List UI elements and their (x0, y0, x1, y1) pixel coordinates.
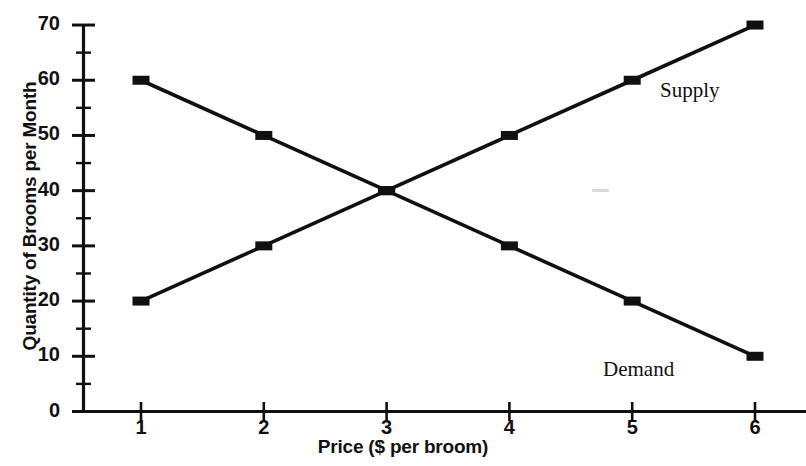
data-point-marker (501, 131, 518, 140)
x-tick-label: 6 (740, 416, 770, 439)
data-point-marker (624, 297, 641, 306)
x-tick-label: 3 (372, 416, 402, 439)
data-point-marker (624, 76, 641, 85)
y-tick-label: 0 (14, 399, 60, 422)
y-tick-label: 20 (14, 288, 60, 311)
y-tick-label: 40 (14, 178, 60, 201)
chart-figure: Quantity of Brooms per Month Price ($ pe… (0, 0, 806, 466)
series-lines (141, 25, 755, 356)
y-tick-label: 30 (14, 233, 60, 256)
series-line-demand (141, 80, 755, 356)
data-point-marker (501, 241, 518, 250)
y-tick-label: 50 (14, 122, 60, 145)
y-tick-label: 10 (14, 343, 60, 366)
series-line-supply (141, 25, 755, 301)
x-axis-title: Price ($ per broom) (0, 436, 806, 458)
scan-artifact (592, 189, 609, 192)
x-tick-label: 1 (126, 416, 156, 439)
x-tick-label: 2 (249, 416, 279, 439)
x-tick-label: 5 (617, 416, 647, 439)
supply-demand-plot (0, 0, 806, 466)
data-point-marker (133, 297, 150, 306)
data-point-marker (378, 186, 395, 195)
series-markers (133, 21, 764, 361)
data-point-marker (255, 131, 272, 140)
y-axis-title: Quantity of Brooms per Month (19, 46, 41, 386)
data-point-marker (255, 241, 272, 250)
y-tick-label: 70 (14, 12, 60, 35)
data-point-marker (747, 352, 764, 361)
x-tick-label: 4 (494, 416, 524, 439)
series-label-supply: Supply (660, 78, 720, 103)
data-point-marker (133, 76, 150, 85)
series-label-demand: Demand (603, 357, 674, 382)
data-point-marker (747, 21, 764, 30)
y-tick-label: 60 (14, 67, 60, 90)
